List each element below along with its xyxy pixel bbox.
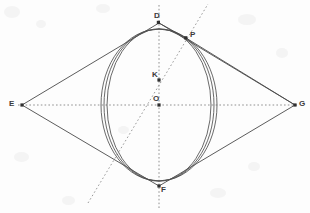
diagram-canvas: D P K O E G F xyxy=(0,0,310,213)
point-label-K: K xyxy=(152,71,158,79)
point-marker-P[interactable] xyxy=(184,36,187,39)
point-marker-O[interactable] xyxy=(157,103,160,106)
point-markers xyxy=(20,21,296,188)
point-label-O: O xyxy=(153,95,159,103)
point-marker-D[interactable] xyxy=(157,21,160,24)
point-label-G: G xyxy=(299,100,305,108)
point-marker-G[interactable] xyxy=(293,103,296,106)
point-label-E: E xyxy=(9,100,15,108)
point-label-P: P xyxy=(190,31,196,39)
tangent-P-to-G xyxy=(186,38,295,105)
point-marker-E[interactable] xyxy=(20,103,23,106)
tangent-P-to-D xyxy=(159,23,186,38)
dotted-axes xyxy=(18,4,299,210)
geometry-svg xyxy=(0,0,310,213)
point-label-F: F xyxy=(161,186,166,194)
point-label-D: D xyxy=(154,12,160,20)
